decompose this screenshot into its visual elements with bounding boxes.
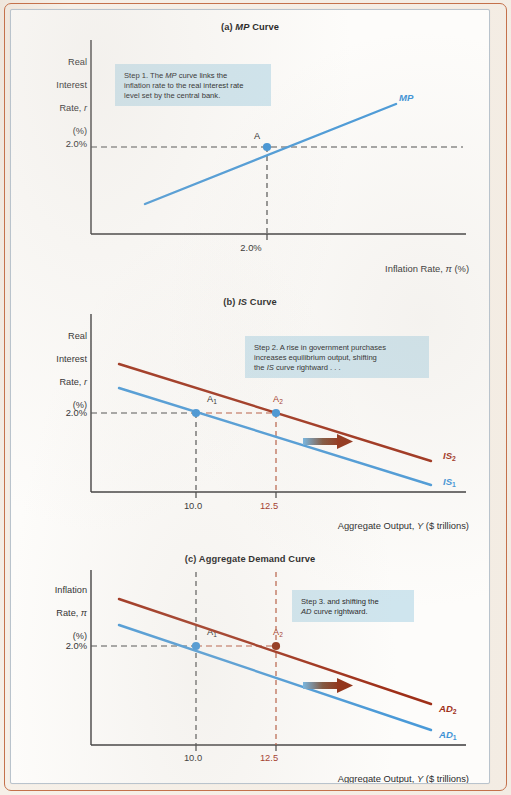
panel-b-is1-curve bbox=[119, 388, 431, 485]
figure-page: (a) MP Curve Real Interest Rate, r (%) 2… bbox=[0, 0, 511, 795]
panel-b-point-A1-dot bbox=[192, 409, 200, 417]
panel-c-plot bbox=[11, 530, 489, 783]
panel-a: (a) MP Curve Real Interest Rate, r (%) 2… bbox=[11, 10, 489, 272]
panel-c-ad1-curve bbox=[119, 625, 431, 730]
panel-c: (c) Aggregate Demand Curve Inflation Rat… bbox=[11, 530, 489, 783]
panel-a-plot bbox=[11, 10, 489, 272]
panel-a-point-A-dot bbox=[263, 143, 271, 151]
panel-b-plot bbox=[11, 272, 489, 530]
panel-c-point-A1-dot bbox=[192, 642, 200, 650]
panel-a-mp-curve bbox=[145, 104, 396, 204]
panel-c-point-A2-dot bbox=[272, 642, 280, 650]
panel-c-shift-arrow-icon bbox=[303, 678, 353, 693]
panel-b-point-A2-dot bbox=[272, 409, 280, 417]
panel-b: (b) IS Curve Real Interest Rate, r (%) 2… bbox=[11, 272, 489, 530]
figure-plate: (a) MP Curve Real Interest Rate, r (%) 2… bbox=[10, 9, 490, 784]
panel-c-ad2-curve bbox=[119, 599, 431, 704]
